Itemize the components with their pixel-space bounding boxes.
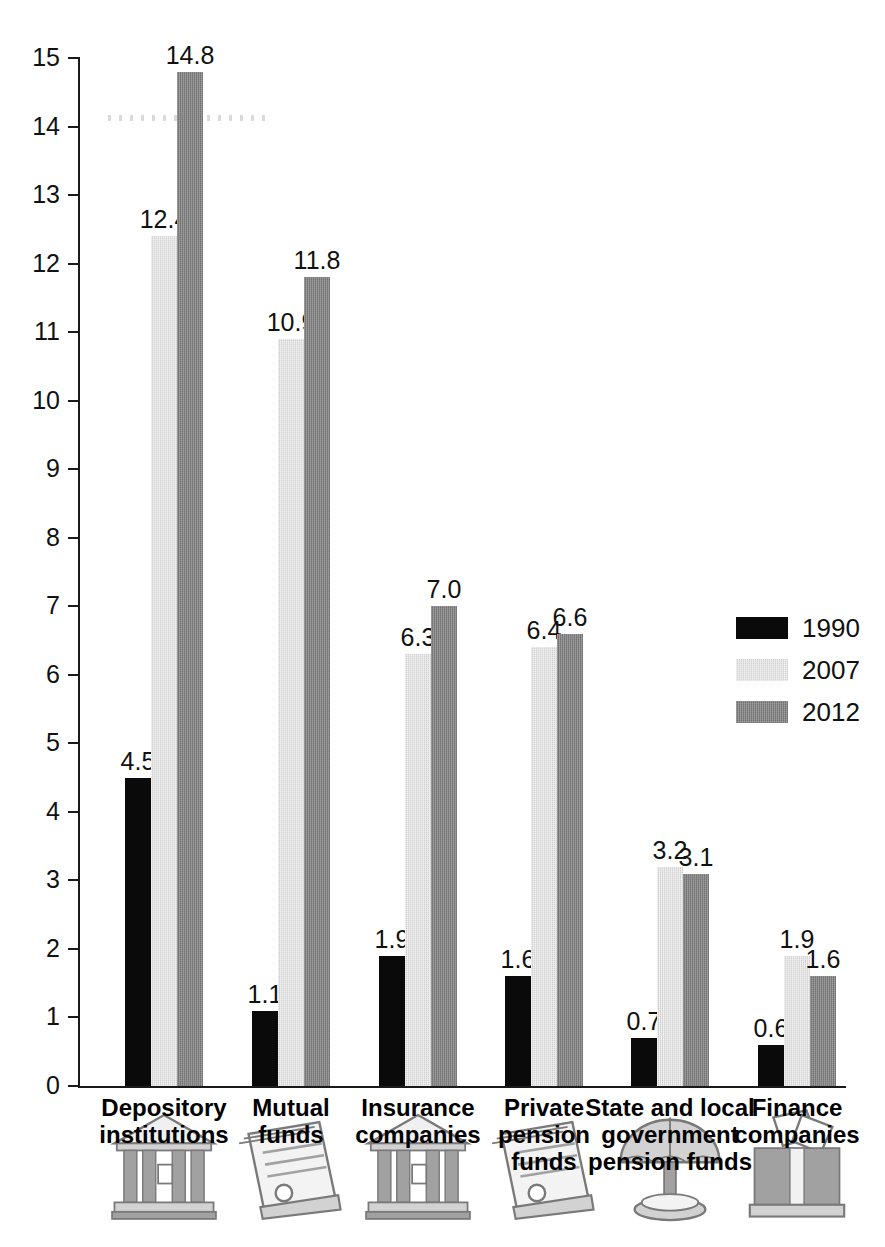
bar-value-label: 6.6 [545,605,595,630]
y-tick-mark [68,879,80,881]
bar-2012-0 [177,72,203,1086]
y-tick-label: 15 [14,45,60,70]
legend-swatch [736,701,788,723]
legend-item-1990: 1990 [736,612,860,644]
bar-2007-1 [278,339,304,1086]
y-tick-mark [68,331,80,333]
bar-2007-0 [151,236,177,1086]
bar-1990-4 [631,1038,657,1086]
bar-value-label: 3.1 [671,845,721,870]
bar-value-label: 14.8 [165,43,215,68]
y-tick-label: 11 [14,319,60,344]
x-category-label: Financecompanies [697,1094,885,1148]
y-tick-label: 7 [14,593,60,618]
y-tick-label: 4 [14,799,60,824]
bar-value-label: 7.0 [419,577,469,602]
legend-label: 1990 [802,615,860,641]
y-tick-mark [68,1016,80,1018]
x-axis-line [78,1086,846,1088]
bar-2012-1 [304,277,330,1086]
legend-swatch [736,659,788,681]
bar-2012-3 [557,634,583,1086]
legend-swatch [736,617,788,639]
y-tick-mark [68,400,80,402]
y-tick-label: 14 [14,114,60,139]
bar-2007-3 [531,647,557,1086]
bar-1990-0 [125,778,151,1086]
y-tick-mark [68,468,80,470]
y-tick-label: 10 [14,388,60,413]
y-tick-label: 3 [14,867,60,892]
bar-1990-3 [505,976,531,1086]
y-tick-mark [68,674,80,676]
y-tick-mark [68,194,80,196]
y-tick-mark [68,605,80,607]
y-tick-label: 8 [14,525,60,550]
bar-1990-2 [379,956,405,1086]
y-tick-mark [68,742,80,744]
bar-2012-5 [810,976,836,1086]
legend-label: 2007 [802,657,860,683]
bar-2012-4 [683,874,709,1086]
y-tick-mark [68,811,80,813]
legend: 199020072012 [736,612,860,738]
y-tick-label: 9 [14,456,60,481]
y-tick-label: 6 [14,662,60,687]
bar-2007-4 [657,867,683,1086]
y-tick-mark [68,537,80,539]
plot-area: 4.512.414.81.110.911.81.96.37.01.66.46.6… [80,58,846,1086]
bar-1990-1 [252,1011,278,1086]
legend-item-2012: 2012 [736,696,860,728]
y-tick-mark [68,263,80,265]
bar-2007-5 [784,956,810,1086]
y-tick-label: 5 [14,730,60,755]
legend-item-2007: 2007 [736,654,860,686]
bar-chart: 1514131211109876543210 4.512.414.81.110.… [0,0,885,1247]
bar-1990-5 [758,1045,784,1086]
y-tick-mark [68,57,80,59]
y-tick-label: 12 [14,251,60,276]
x-category-label-line: companies [697,1121,885,1148]
bar-value-label: 11.8 [292,248,342,273]
y-tick-mark [68,948,80,950]
y-tick-label: 1 [14,1004,60,1029]
x-category-5: Financecompanies [697,1094,885,1148]
bar-2007-2 [405,654,431,1086]
y-tick-mark [68,1085,80,1087]
bar-value-label: 1.6 [798,947,848,972]
x-category-label-line: pension funds [550,1148,790,1175]
x-category-label-line: Finance [697,1094,885,1121]
bar-2012-2 [431,606,457,1086]
y-tick-label: 13 [14,182,60,207]
y-tick-label: 2 [14,936,60,961]
y-tick-mark [68,126,80,128]
legend-label: 2012 [802,699,860,725]
